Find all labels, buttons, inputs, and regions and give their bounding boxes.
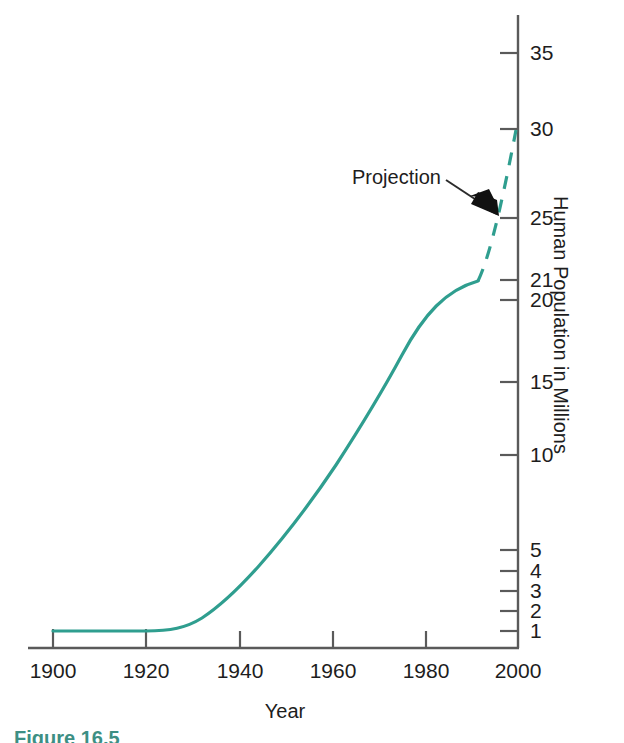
- y-axis-title: Human Population in Millions: [549, 196, 572, 454]
- x-tick-label-2000: 2000: [495, 660, 542, 681]
- y-tick-label-3: 3: [530, 580, 542, 601]
- figure-caption: Figure 16.5: [14, 727, 120, 743]
- x-tick-label-1940: 1940: [217, 660, 264, 681]
- population-curve-solid: [53, 281, 478, 631]
- projection-arrow: [446, 180, 499, 216]
- x-axis-title: Year: [265, 700, 305, 723]
- y-tick-label-5: 5: [530, 539, 542, 560]
- x-tick-label-1980: 1980: [403, 660, 450, 681]
- projection-annotation-label: Projection: [352, 166, 441, 189]
- population-growth-chart: 35 30 25 21 20 15 10 5 4 3 2 1 1900 1920…: [0, 0, 624, 743]
- y-tick-label-2: 2: [530, 600, 542, 621]
- y-tick-label-30: 30: [530, 118, 553, 139]
- y-tick-label-35: 35: [530, 42, 553, 63]
- x-tick-label-1900: 1900: [30, 660, 77, 681]
- y-tick-label-1: 1: [530, 620, 542, 641]
- y-tick-label-4: 4: [530, 560, 542, 581]
- x-tick-label-1960: 1960: [310, 660, 357, 681]
- x-tick-label-1920: 1920: [123, 660, 170, 681]
